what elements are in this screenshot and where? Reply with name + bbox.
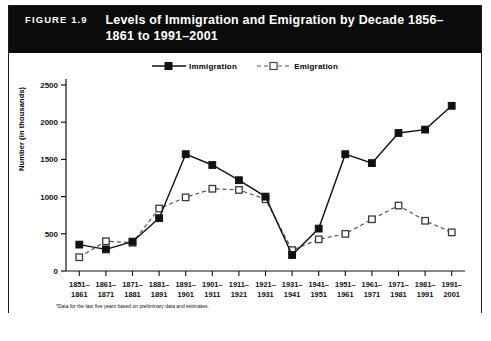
data-point-marker: [422, 126, 429, 133]
x-tick-label: 1951: [310, 290, 326, 299]
x-tick-label: 1891: [151, 290, 167, 299]
x-tick-label: 1861: [71, 290, 87, 299]
data-point-marker: [209, 162, 216, 169]
x-tick-label: 1981–: [415, 280, 436, 289]
data-point-marker: [262, 193, 269, 200]
data-point-marker: [103, 238, 110, 245]
y-tick-label: 1500: [40, 155, 58, 164]
x-tick-label: 1961: [337, 290, 353, 299]
data-point-marker: [182, 194, 189, 201]
y-tick-label: 2500: [40, 81, 58, 90]
data-point-marker: [315, 225, 322, 232]
x-tick-label: 1991–: [441, 280, 462, 289]
x-tick-label: 1931: [257, 290, 273, 299]
data-point-marker: [289, 252, 296, 259]
data-point-marker: [395, 130, 402, 137]
figure-footnote: *Data for the last five years based on p…: [56, 303, 209, 309]
data-point-marker: [449, 229, 456, 236]
data-point-marker: [129, 238, 136, 245]
series-line: [79, 106, 451, 255]
data-point-marker: [236, 187, 243, 194]
page-title: Levels of Immigration and Emigration by …: [105, 12, 460, 44]
x-tick-label: 1941: [284, 290, 300, 299]
data-point-marker: [369, 216, 376, 223]
x-tick-label: 1891–: [175, 280, 196, 289]
x-tick-label: 1961–: [362, 280, 383, 289]
x-tick-label: 1861–: [96, 280, 117, 289]
y-tick-label: 1000: [40, 193, 58, 202]
y-tick-label: 2000: [40, 118, 58, 127]
data-point-marker: [316, 236, 323, 243]
x-tick-label: 1991: [417, 290, 433, 299]
x-tick-label: 1921–: [255, 280, 276, 289]
x-tick-label: 1911: [204, 290, 220, 299]
x-tick-label: 1911–: [229, 280, 249, 289]
y-tick-label: 500: [45, 230, 59, 239]
x-tick-label: 1871: [98, 290, 114, 299]
data-point-marker: [76, 254, 83, 261]
x-tick-label: 1901: [177, 290, 193, 299]
x-tick-label: 1951–: [335, 280, 356, 289]
data-point-marker: [182, 151, 189, 158]
series-immigration: [76, 102, 455, 258]
x-tick-label: 1981: [390, 290, 406, 299]
data-point-marker: [342, 151, 349, 158]
data-point-marker: [156, 215, 163, 222]
chart-canvas: 05001000150020002500 1851–18611861–18711…: [9, 53, 483, 314]
x-tick-label: 2001: [443, 290, 459, 299]
data-point-marker: [103, 246, 110, 253]
x-tick-label: 1901–: [202, 280, 223, 289]
data-point-marker: [342, 231, 349, 238]
y-tick-label: 0: [54, 267, 59, 276]
x-axis-ticks: 1851–18611861–18711871–18811881–18911891…: [69, 271, 462, 299]
x-tick-label: 1921: [231, 290, 247, 299]
data-point-marker: [395, 202, 402, 209]
data-point-marker: [369, 160, 376, 167]
x-tick-label: 1941–: [308, 280, 329, 289]
x-tick-label: 1971: [364, 290, 380, 299]
figure-title-bar: FIGURE 1.9 Levels of Immigration and Emi…: [9, 6, 481, 53]
x-tick-label: 1931–: [282, 280, 303, 289]
figure-number-label: FIGURE 1.9: [25, 12, 101, 25]
y-axis-ticks: 05001000150020002500: [40, 81, 66, 276]
data-point-marker: [236, 177, 243, 184]
x-tick-label: 1851–: [69, 280, 90, 289]
x-tick-label: 1881: [124, 290, 140, 299]
x-tick-label: 1971–: [388, 280, 409, 289]
x-tick-label: 1881–: [149, 280, 170, 289]
plot-area: Immigration Emigration Number (in thousa…: [9, 53, 481, 314]
data-point-marker: [76, 241, 83, 248]
data-point-marker: [209, 186, 216, 193]
figure-container: FIGURE 1.9 Levels of Immigration and Emi…: [8, 5, 482, 313]
x-tick-label: 1871–: [122, 280, 143, 289]
data-point-marker: [448, 102, 455, 109]
data-point-marker: [422, 218, 429, 225]
